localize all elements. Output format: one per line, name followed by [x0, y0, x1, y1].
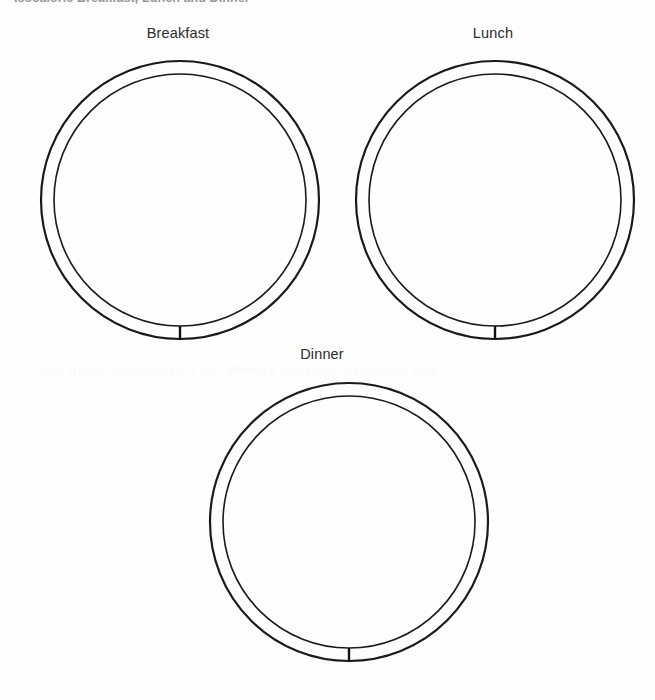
donut-outer-ring: [41, 61, 319, 339]
chart-lunch: Lunch: [353, 20, 633, 340]
chart-title-breakfast: Breakfast: [38, 25, 318, 41]
donut-inner-ring: [369, 74, 621, 326]
donut-outer-ring: [356, 61, 634, 339]
chart-title-dinner: Dinner: [182, 346, 462, 362]
donut-breakfast: [38, 58, 322, 342]
document-heading: Isocaloric Breakfast, Lunch and Dinner: [14, 0, 434, 5]
chart-breakfast: Breakfast: [38, 20, 318, 340]
donut-outer-ring: [210, 383, 488, 661]
document-page: Food group composition per meal Energy d…: [0, 0, 655, 700]
donut-inner-ring: [223, 396, 475, 648]
donut-lunch: [353, 58, 637, 342]
donut-inner-ring: [54, 74, 306, 326]
donut-dinner: [207, 380, 491, 664]
chart-title-lunch: Lunch: [353, 25, 633, 41]
chart-dinner: Dinner: [182, 340, 462, 670]
